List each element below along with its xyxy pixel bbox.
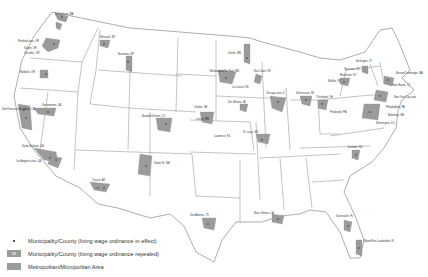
city-label: Santa Barbara, CA <box>22 144 44 148</box>
city-label: Missoula, MT <box>100 35 116 39</box>
city-label: Bellingham, WA <box>55 12 74 16</box>
city-label: San Francisco Bay Area, CA <box>2 107 35 111</box>
city-label: Salem, OR <box>24 46 37 50</box>
city-label: Philadelphia, PA <box>386 105 405 109</box>
legend-item-in-effect: Municipality/County (living wage ordinan… <box>6 234 226 247</box>
city-label: Buffalo, NY <box>328 79 341 83</box>
city-label: Tucson, AZ <box>92 178 105 182</box>
city-label: Medford, OR <box>20 70 35 74</box>
city-label: Des Moines, IA <box>228 100 246 104</box>
metro-swatch-icon <box>7 263 21 270</box>
city-label: New York City area <box>394 95 417 99</box>
dot-icon <box>13 240 15 242</box>
city-label: La Crosse, WI <box>232 85 249 89</box>
city-label: Boston/Cambridge, MA <box>396 71 423 75</box>
city-label: Baltimore, MD <box>388 113 405 117</box>
city-label: San Antonio, TX <box>190 213 209 217</box>
city-label: Gainesville, FL <box>336 214 354 218</box>
city-label: Bozeman, MT <box>118 52 135 56</box>
city-label: Cleveland, OH <box>316 95 333 99</box>
city-label: Santa Fe, NM <box>154 161 170 165</box>
city-label: Syracuse, NY <box>344 67 360 71</box>
city-label: Boulder/Denver, CO <box>142 114 165 118</box>
city-label: Los Angeles area, CA <box>16 159 41 163</box>
city-label: Eau Claire, WI <box>254 69 271 73</box>
city-label: Pittsburgh, PA <box>330 110 347 114</box>
city-label: Miami/Fort Lauderdale, FL <box>364 239 395 243</box>
city-label: Lawrence, KS <box>214 134 230 138</box>
legend-label: Municipality/County (living wage ordinan… <box>28 238 157 244</box>
city-label: Durham, NC <box>348 145 363 149</box>
city-label: Chicago area, IL <box>266 91 286 95</box>
city-label: Minneapolis/St. Paul, MN <box>210 69 239 73</box>
city-label: St. Louis, MO <box>243 130 259 134</box>
city-label: Sacramento, CA <box>42 103 61 107</box>
city-label: Detroit area, MI <box>296 91 314 95</box>
city-label: Burlington, VT <box>356 59 373 63</box>
map-legend: Municipality/County (living wage ordinan… <box>6 234 226 273</box>
city-label: New Orleans, LA <box>254 211 274 215</box>
legend-label: Municipality/County (living wage ordinan… <box>28 251 159 257</box>
city-label: Omaha, NE <box>194 105 208 109</box>
city-label: Lincoln, NE <box>196 117 210 121</box>
legend-item-metro: Metropolitan/Micropolitan Area <box>6 260 226 273</box>
city-label: Duluth, MN <box>228 51 241 55</box>
city-label: Portland area, OR <box>18 39 39 43</box>
city-label: New Haven, CT <box>392 83 411 87</box>
city-label: Rochester, NY <box>340 73 357 77</box>
legend-item-repealed: Municipality/County (living wage ordinan… <box>6 247 226 260</box>
city-label: Corvallis, OR <box>24 51 39 55</box>
legend-label: Metropolitan/Micropolitan Area <box>28 264 104 270</box>
repealed-swatch-icon <box>7 250 21 257</box>
city-label: Washington, DC <box>376 121 395 125</box>
